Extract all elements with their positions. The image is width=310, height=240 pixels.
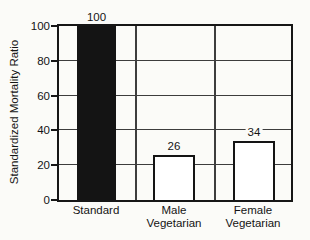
y-tick-40 [51, 129, 57, 131]
category-label-female-vegetarian: Female Vegetarian [208, 204, 298, 229]
y-tick-label-20: 20 [18, 158, 50, 172]
y-tick-label-40: 40 [18, 123, 50, 137]
y-tick-label-0: 0 [18, 193, 50, 207]
y-tick-80 [51, 60, 57, 62]
y-tick-label-100: 100 [18, 19, 50, 33]
y-tick-0 [51, 199, 57, 201]
category-label-male-vegetarian: Male Vegetarian [129, 204, 219, 229]
column-divider-1 [135, 26, 137, 200]
y-tick-label-60: 60 [18, 89, 50, 103]
standardized-mortality-ratio-figure: Standardized Mortality Ratio 1002634 020… [0, 0, 310, 240]
y-tick-60 [51, 95, 57, 97]
plot-area: 1002634 [57, 24, 293, 202]
category-label-standard: Standard [51, 204, 141, 217]
y-axis-title: Standardized Mortality Ratio [6, 17, 22, 207]
bar-female-vegetarian [233, 141, 275, 200]
y-tick-100 [51, 25, 57, 27]
column-divider-2 [214, 26, 216, 200]
bar-value-label-standard: 100 [85, 11, 108, 23]
y-tick-20 [51, 164, 57, 166]
bar-value-label-male-vegetarian: 26 [166, 140, 183, 152]
bar-value-label-female-vegetarian: 34 [246, 126, 263, 138]
bar-standard [77, 26, 116, 200]
y-tick-label-80: 80 [18, 54, 50, 68]
bar-male-vegetarian [153, 155, 195, 200]
